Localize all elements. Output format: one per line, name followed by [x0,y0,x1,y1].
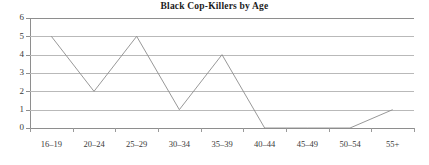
x-tick-mark-5 [243,128,244,132]
y-tick-mark-5 [26,36,30,37]
x-tick-mark-6 [286,128,287,132]
gridline-0 [30,128,414,129]
y-tick-mark-4 [26,55,30,56]
x-tick-mark-1 [73,128,74,132]
gridline-5 [30,36,414,37]
x-tick-mark-3 [158,128,159,132]
y-tick-label-2: 2 [4,87,24,96]
y-tick-label-1: 1 [4,105,24,114]
plot-area [30,18,414,128]
y-tick-label-0: 0 [4,123,24,132]
gridline-3 [30,73,414,74]
gridline-2 [30,91,414,92]
y-tick-label-3: 3 [4,68,24,77]
y-tick-mark-6 [26,18,30,19]
x-tick-label-25-29: 25–29 [115,140,159,149]
x-tick-label-40-44: 40–44 [243,140,287,149]
x-tick-mark-2 [115,128,116,132]
x-tick-label-55plus: 55+ [371,140,415,149]
y-tick-label-6: 6 [4,13,24,22]
y-tick-mark-3 [26,73,30,74]
chart-figure: Black Cop-Killers by Age 6 5 4 3 2 1 0 1… [0,0,429,165]
x-tick-mark-0 [30,128,31,132]
x-tick-label-35-39: 35–39 [200,140,244,149]
x-tick-mark-7 [329,128,330,132]
chart-title: Black Cop-Killers by Age [0,1,429,11]
x-tick-mark-9 [414,128,415,132]
y-tick-mark-2 [26,91,30,92]
x-tick-label-30-34: 30–34 [157,140,201,149]
y-tick-label-4: 4 [4,50,24,59]
x-tick-mark-8 [371,128,372,132]
x-tick-mark-4 [201,128,202,132]
y-tick-label-5: 5 [4,32,24,41]
x-tick-label-16-19: 16–19 [29,140,73,149]
x-tick-label-50-54: 50–54 [328,140,372,149]
gridline-6 [30,18,414,19]
x-tick-label-45-49: 45–49 [285,140,329,149]
gridline-1 [30,110,414,111]
x-tick-label-20-24: 20–24 [72,140,116,149]
gridline-4 [30,55,414,56]
y-tick-mark-1 [26,110,30,111]
